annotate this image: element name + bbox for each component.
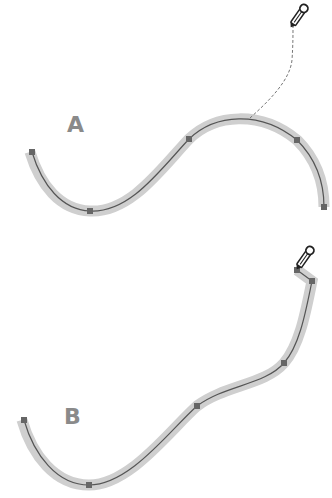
anchor-node[interactable] <box>86 482 92 488</box>
anchor-node[interactable] <box>281 360 287 366</box>
panel-b-label: B <box>64 404 81 429</box>
anchor-node[interactable] <box>87 208 93 214</box>
curve-a-pencil-dashed-line <box>250 26 293 118</box>
pencil-reshape-diagram: A B <box>0 0 332 498</box>
curve-b-highlight <box>22 270 312 485</box>
anchor-node[interactable] <box>194 403 200 409</box>
anchor-node[interactable] <box>294 137 300 143</box>
anchor-node[interactable] <box>321 204 327 210</box>
anchor-node[interactable] <box>29 149 35 155</box>
pencil-icon[interactable] <box>287 3 309 30</box>
panel-a-label: A <box>67 112 84 137</box>
anchor-node[interactable] <box>309 278 315 284</box>
anchor-node[interactable] <box>21 417 27 423</box>
panel-a: A <box>29 3 327 214</box>
pencil-icon[interactable] <box>293 245 315 272</box>
panel-b: B <box>21 245 315 488</box>
anchor-node[interactable] <box>186 136 192 142</box>
